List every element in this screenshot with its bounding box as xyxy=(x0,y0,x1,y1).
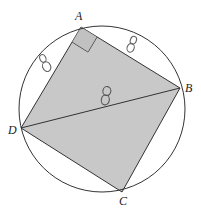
rectangle-abcd xyxy=(21,27,180,192)
annotation-ad xyxy=(38,53,53,73)
vertex-label-b: B xyxy=(185,81,193,95)
vertex-label-d: D xyxy=(7,123,17,137)
annotation-ab xyxy=(126,35,138,53)
vertex-label-c: C xyxy=(119,194,128,208)
vertex-label-a: A xyxy=(74,9,83,23)
inscribed-rectangle-diagram: A B C D xyxy=(0,0,201,210)
